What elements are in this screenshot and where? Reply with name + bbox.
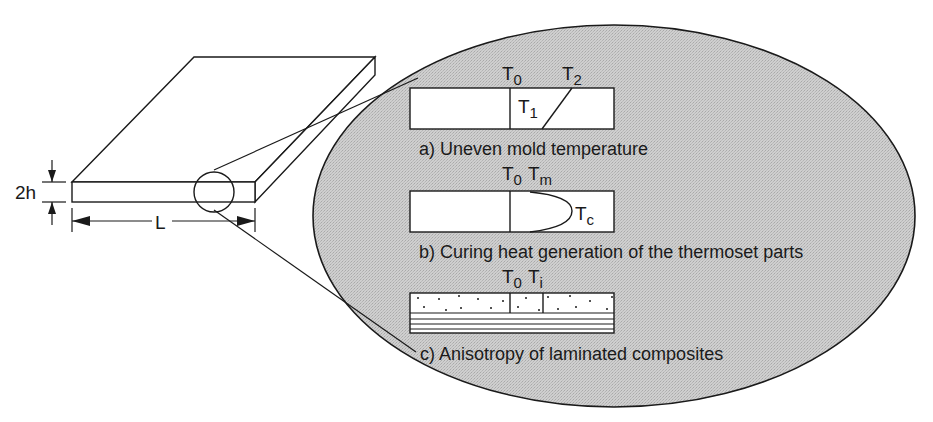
caption-b: b) Curing heat generation of the thermos… <box>419 242 803 262</box>
figure-canvas: 2h L T0 T2 T1 a) Uneven mold temperature… <box>0 0 933 422</box>
length-label: L <box>155 212 166 233</box>
caption-c: c) Anisotropy of laminated composites <box>420 344 723 364</box>
caption-a: a) Uneven mold temperature <box>419 139 648 159</box>
thickness-dimension <box>42 160 66 225</box>
thickness-label: 2h <box>15 182 36 203</box>
panel-a-diagram <box>410 88 614 129</box>
plate-front-face <box>72 182 255 202</box>
panel-c-diagram <box>410 293 614 333</box>
